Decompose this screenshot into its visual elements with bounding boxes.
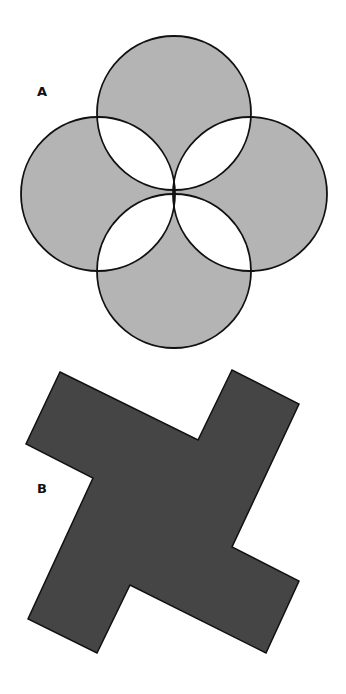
cross-shape	[26, 370, 299, 653]
figure-label-b: B	[37, 481, 47, 496]
figure-b-tilted-cross	[26, 370, 299, 653]
figure-label-a: A	[37, 84, 47, 99]
diagram-canvas	[0, 0, 346, 694]
figure-a-four-circles	[21, 36, 327, 348]
